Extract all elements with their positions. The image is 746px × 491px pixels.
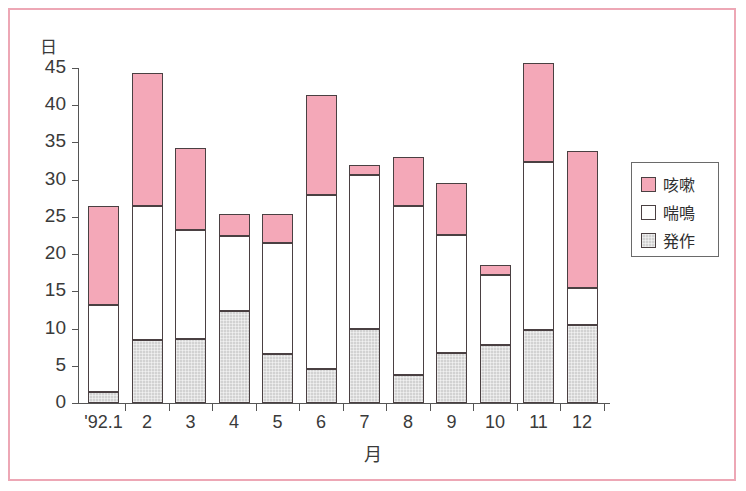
bar-column: [349, 68, 380, 403]
bar-column: [393, 68, 424, 403]
bar-segment-hossa: [393, 375, 424, 403]
bar-segment-zenmei: [567, 288, 598, 324]
y-axis-unit-label: 日: [40, 33, 57, 58]
y-axis-tick-label: 0: [28, 391, 66, 413]
legend-swatch-icon: [641, 177, 656, 192]
bar-segment-kough: [567, 151, 598, 288]
bar-segment-kough: [219, 214, 250, 236]
legend-item-hossa[interactable]: 発作: [641, 226, 718, 254]
bar-segment-hossa: [175, 339, 206, 403]
bar-segment-hossa: [262, 354, 293, 403]
bar-segment-zenmei: [219, 236, 250, 310]
legend-item-label: 喘鳴: [663, 200, 695, 224]
bar-segment-hossa: [132, 340, 163, 403]
x-axis-tick-mark: [169, 404, 170, 411]
y-axis-tick-label: 20: [28, 242, 66, 264]
bar-segment-zenmei: [132, 206, 163, 341]
bar-segment-zenmei: [349, 175, 380, 329]
bar-column: [132, 68, 163, 403]
bar-segment-zenmei: [436, 235, 467, 353]
x-axis-tick-mark: [560, 404, 561, 411]
bar-segment-zenmei: [306, 195, 337, 369]
x-axis-line: [78, 403, 610, 404]
x-axis-tick-mark: [430, 404, 431, 411]
bar-column: [175, 68, 206, 403]
y-axis-tick-label: 15: [28, 279, 66, 301]
bar-segment-hossa: [567, 325, 598, 403]
bar-segment-kough: [88, 206, 119, 305]
bar-segment-kough: [393, 157, 424, 205]
legend-item-zenmei[interactable]: 喘鳴: [641, 198, 718, 226]
chart-legend: 咳嗽喘鳴発作: [631, 162, 719, 257]
x-axis-tick-mark: [517, 404, 518, 411]
x-axis-tick-mark: [299, 404, 300, 411]
x-axis-tick-mark: [256, 404, 257, 411]
bar-segment-hossa: [219, 311, 250, 403]
bar-segment-kough: [306, 95, 337, 195]
bar-column: [480, 68, 511, 403]
bar-segment-kough: [349, 165, 380, 175]
x-axis-title: 月: [0, 440, 746, 466]
bar-segment-zenmei: [262, 243, 293, 354]
x-axis-tick-mark: [604, 404, 605, 411]
y-axis-tick-label: 30: [28, 168, 66, 190]
x-axis-tick-mark: [343, 404, 344, 411]
x-axis-tick-mark: [386, 404, 387, 411]
bar-segment-zenmei: [88, 305, 119, 392]
y-axis-tick-label: 10: [28, 317, 66, 339]
bar-segment-hossa: [88, 392, 119, 403]
bar-segment-hossa: [349, 329, 380, 403]
bar-segment-kough: [132, 73, 163, 206]
bar-segment-zenmei: [175, 230, 206, 339]
bar-segment-zenmei: [480, 275, 511, 345]
bar-segment-kough: [436, 183, 467, 234]
bar-column: [567, 68, 598, 403]
y-axis-tick-label: 25: [28, 205, 66, 227]
y-axis-tick-label: 5: [28, 354, 66, 376]
bar-segment-kough: [262, 214, 293, 243]
bar-segment-hossa: [523, 330, 554, 403]
x-axis-tick-mark: [212, 404, 213, 411]
bar-column: [436, 68, 467, 403]
legend-item-label: 発作: [663, 228, 695, 252]
bar-column: [262, 68, 293, 403]
y-axis-tick-label: 45: [28, 56, 66, 78]
bar-segment-zenmei: [393, 206, 424, 375]
legend-swatch-icon: [641, 233, 656, 248]
y-axis-tick-label: 40: [28, 93, 66, 115]
bar-segment-zenmei: [523, 162, 554, 330]
x-axis-tick-mark: [125, 404, 126, 411]
bar-column: [219, 68, 250, 403]
bar-column: [523, 68, 554, 403]
bar-segment-hossa: [436, 353, 467, 403]
x-axis-tick-mark: [473, 404, 474, 411]
bar-column: [306, 68, 337, 403]
bar-segment-kough: [175, 148, 206, 231]
legend-item-kough[interactable]: 咳嗽: [641, 170, 718, 198]
bar-segment-hossa: [306, 369, 337, 403]
legend-swatch-icon: [641, 205, 656, 220]
y-axis-tick-label: 35: [28, 130, 66, 152]
bar-segment-hossa: [480, 345, 511, 403]
bar-segment-kough: [480, 265, 511, 275]
bar-column: [88, 68, 119, 403]
x-axis-tick-label: 12: [552, 412, 612, 433]
legend-item-label: 咳嗽: [663, 172, 695, 196]
bar-segment-kough: [523, 63, 554, 162]
y-axis-line: [78, 68, 79, 404]
